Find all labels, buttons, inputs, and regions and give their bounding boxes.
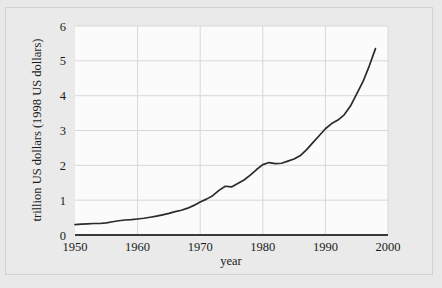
y-tick-label: 4	[60, 89, 67, 103]
x-tick-label: 2000	[376, 240, 401, 254]
x-axis-tick-labels: 195019601970198019902000	[63, 240, 401, 254]
y-tick-label: 2	[60, 159, 66, 173]
y-tick-label: 1	[60, 194, 66, 208]
y-tick-label: 5	[60, 54, 66, 68]
y-tick-label: 3	[60, 124, 66, 138]
x-tick-label: 1960	[125, 240, 150, 254]
y-axis-tick-labels: 0123456	[60, 20, 67, 243]
y-axis-title: trillion US dollars (1998 US dollars)	[30, 39, 44, 222]
x-tick-label: 1980	[250, 240, 275, 254]
x-axis-title: year	[220, 254, 242, 268]
figure-background: 0123456 195019601970198019902000 year tr…	[0, 0, 442, 288]
x-tick-label: 1990	[313, 240, 338, 254]
x-tick-label: 1950	[63, 240, 88, 254]
x-tick-label: 1970	[188, 240, 213, 254]
y-tick-label: 6	[60, 20, 66, 34]
line-chart: 0123456 195019601970198019902000 year tr…	[0, 0, 442, 288]
